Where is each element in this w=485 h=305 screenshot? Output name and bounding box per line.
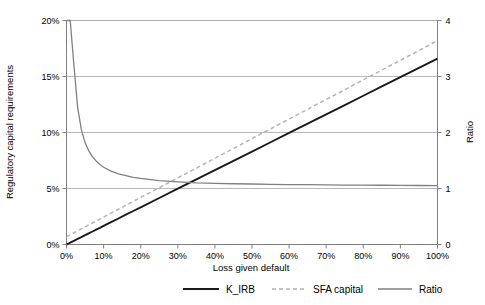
series-line-sfa-capital — [67, 41, 438, 237]
y2-tick-label: 1 — [446, 184, 451, 194]
x-tick-label: 20% — [132, 251, 150, 261]
line-chart: 0%10%20%30%40%50%60%70%80%90%100% 0%5%10… — [0, 0, 485, 305]
y2-tick-labels: 01234 — [446, 16, 451, 250]
legend-label-sfa-capital: SFA capital — [313, 284, 363, 295]
y2-tick-label: 4 — [446, 16, 451, 26]
y-tick-label: 0% — [46, 240, 59, 250]
x-axis-title: Loss given default — [213, 262, 290, 273]
legend-label-k-irb: K_IRB — [226, 284, 255, 295]
y2-tick-label: 0 — [446, 240, 451, 250]
y-tick-label: 15% — [41, 72, 59, 82]
x-tick-label: 90% — [391, 251, 409, 261]
y2-axis-title: Ratio — [464, 121, 475, 143]
y-tick-label: 20% — [41, 16, 59, 26]
x-tick-labels: 0%10%20%30%40%50%60%70%80%90%100% — [60, 251, 449, 261]
x-tick-label: 40% — [206, 251, 224, 261]
x-tick-label: 70% — [317, 251, 335, 261]
tick-marks-group — [63, 21, 442, 249]
x-tick-label: 30% — [169, 251, 187, 261]
y-axis-title: Regulatory capital requirements — [4, 65, 15, 199]
x-tick-label: 60% — [280, 251, 298, 261]
chart-container: 0%10%20%30%40%50%60%70%80%90%100% 0%5%10… — [0, 0, 485, 305]
y-tick-label: 10% — [41, 128, 59, 138]
x-tick-label: 80% — [354, 251, 372, 261]
series-line-ratio — [67, 21, 438, 186]
gridlines-group — [67, 21, 438, 189]
series-line-k-irb — [67, 59, 438, 245]
x-tick-label: 10% — [95, 251, 113, 261]
y2-tick-label: 3 — [446, 72, 451, 82]
x-tick-label: 0% — [60, 251, 73, 261]
x-tick-label: 100% — [426, 251, 449, 261]
legend-label-ratio: Ratio — [419, 284, 443, 295]
y-tick-labels: 0%5%10%15%20% — [41, 16, 59, 250]
y2-tick-label: 2 — [446, 128, 451, 138]
x-tick-label: 50% — [243, 251, 261, 261]
chart-legend: K_IRBSFA capitalRatio — [183, 284, 443, 295]
y-tick-label: 5% — [46, 184, 59, 194]
